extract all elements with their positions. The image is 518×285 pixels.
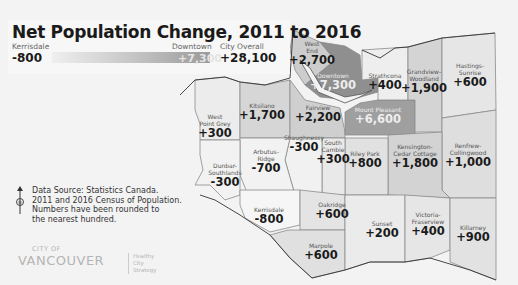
label-renfrew-collingwood: Renfrew- Collingwood+1,000 [445,142,491,169]
label-fairview: Fairview+2,200 [295,104,341,124]
label-riley-park: Riley Park+800 [348,150,382,170]
label-kensington-cedar-cottage: Kensington- Cedar Cottage+1,800 [392,143,438,170]
label-oakridge: Oakridge+600 [315,201,349,221]
svg-text:N: N [18,200,21,205]
label-killarney: Killarney+900 [456,224,490,244]
north-arrow-icon: N [15,186,25,216]
label-kerrisdale: Kerrisdale-800 [254,206,284,226]
legend-overall-value: +28,100 [220,51,276,65]
label-downtown: Downtown+7,300 [310,72,356,92]
label-victoria-fraserview: Victoria- Fraserview+400 [411,211,445,238]
label-grandview-woodland: Grandview- Woodland+1,900 [401,68,447,95]
label-arbutus-ridge: Arbutus- Ridge-700 [252,148,281,175]
label-west-end: West End+2,700 [289,40,335,67]
label-marpole: Marpole+600 [304,242,338,262]
label-dunbar-southlands: Dunbar- Southlands-300 [208,162,242,189]
label-kitsilano: Kitsilano+1,700 [239,102,285,122]
legend-min-value: -800 [12,51,42,65]
legend-max-label: Downtown [172,42,212,51]
label-hastings-sunrise: Hastings- Sunrise+600 [453,62,487,89]
label-south-cambie: South Cambie+300 [316,139,350,166]
label-strathcona: Strathcona+400 [368,72,402,92]
legend-max-value: +7,300 [178,52,222,65]
data-source-note: Data Source: Statistics Canada. 2011 and… [32,186,182,224]
label-mount-pleasant: Mount Pleasant+6,600 [355,106,401,126]
legend-overall-label: City Overall [220,42,264,51]
label-sunset: Sunset+200 [365,220,399,240]
map-title: Net Population Change, 2011 to 2016 [12,22,361,42]
label-west-point-grey: West Point Grey+300 [198,113,232,140]
legend-min-label: Kerrisdale [12,42,49,51]
